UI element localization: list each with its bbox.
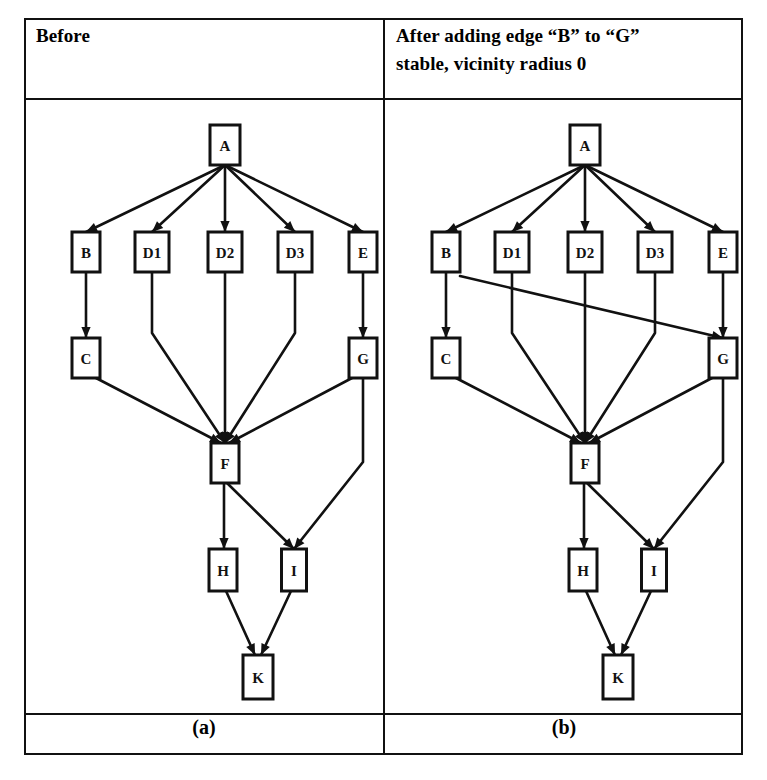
- node-label-i: I: [651, 563, 657, 579]
- node-label-h: H: [217, 563, 229, 579]
- node-label-c: C: [81, 351, 92, 367]
- node-label-k: K: [612, 670, 624, 686]
- graph-node-f[interactable]: F: [571, 443, 599, 483]
- graph-node-g[interactable]: G: [349, 338, 377, 378]
- header-left: Before: [36, 22, 366, 50]
- node-label-d1: D1: [503, 245, 521, 261]
- graph-node-d1[interactable]: D1: [135, 232, 169, 272]
- graph-node-k[interactable]: K: [603, 655, 633, 699]
- graph-node-g[interactable]: G: [709, 338, 737, 378]
- graph-node-i[interactable]: I: [282, 549, 307, 591]
- node-label-k: K: [252, 670, 264, 686]
- node-label-g: G: [717, 351, 729, 367]
- graph-node-a[interactable]: A: [570, 125, 600, 165]
- graph-node-c[interactable]: C: [432, 338, 460, 378]
- graph-node-h[interactable]: H: [569, 549, 597, 591]
- graph-svg-a: ABD1D2D3ECGFHIK: [25, 100, 383, 713]
- graph-node-k[interactable]: K: [243, 655, 273, 699]
- graph-node-b[interactable]: B: [432, 232, 460, 272]
- node-label-b: B: [81, 245, 91, 261]
- graph-node-d3[interactable]: D3: [278, 232, 312, 272]
- graph-node-h[interactable]: H: [209, 549, 237, 591]
- graph-node-a[interactable]: A: [210, 125, 240, 165]
- graph-node-i[interactable]: I: [642, 549, 667, 591]
- graph-panel-b: ABD1D2D3ECGFHIK: [385, 100, 743, 713]
- node-label-c: C: [441, 351, 452, 367]
- node-label-d3: D3: [646, 245, 664, 261]
- graph-node-e[interactable]: E: [709, 232, 737, 272]
- node-label-f: F: [580, 456, 589, 472]
- node-label-d3: D3: [286, 245, 304, 261]
- graph-node-d2[interactable]: D2: [208, 232, 242, 272]
- caption-a: (a): [25, 716, 383, 739]
- graph-node-f[interactable]: F: [211, 443, 239, 483]
- node-label-b: B: [441, 245, 451, 261]
- caption-b: (b): [385, 716, 743, 739]
- caption-divider-horizontal: [24, 713, 743, 715]
- graph-node-e[interactable]: E: [349, 232, 377, 272]
- node-label-e: E: [718, 245, 728, 261]
- figure-root: Before After adding edge “B” to “G” stab…: [0, 0, 767, 780]
- node-label-a: A: [580, 138, 591, 154]
- header-right: After adding edge “B” to “G” stable, vic…: [396, 22, 731, 78]
- node-label-d2: D2: [576, 245, 594, 261]
- graph-node-d2[interactable]: D2: [568, 232, 602, 272]
- graph-svg-b: ABD1D2D3ECGFHIK: [385, 100, 743, 713]
- node-label-d2: D2: [216, 245, 234, 261]
- node-label-e: E: [358, 245, 368, 261]
- node-label-f: F: [220, 456, 229, 472]
- graph-panel-a: ABD1D2D3ECGFHIK: [25, 100, 383, 713]
- node-label-a: A: [220, 138, 231, 154]
- node-label-g: G: [357, 351, 369, 367]
- node-label-h: H: [577, 563, 589, 579]
- graph-node-b[interactable]: B: [72, 232, 100, 272]
- node-label-i: I: [291, 563, 297, 579]
- graph-node-c[interactable]: C: [72, 338, 100, 378]
- node-label-d1: D1: [143, 245, 161, 261]
- graph-node-d3[interactable]: D3: [638, 232, 672, 272]
- graph-node-d1[interactable]: D1: [495, 232, 529, 272]
